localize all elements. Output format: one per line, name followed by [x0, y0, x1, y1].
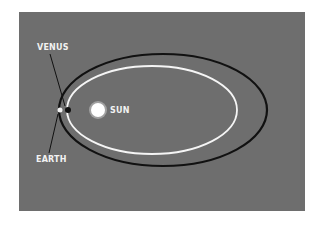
earth-leader-line [49, 114, 58, 153]
sun-label: SUN [110, 106, 130, 115]
orbit-diagram: SUN VENUS EARTH [0, 0, 321, 225]
sun-core [91, 103, 105, 117]
earth-label: EARTH [36, 155, 67, 164]
venus-leader-line [50, 54, 65, 106]
venus-icon [65, 107, 71, 113]
venus-label: VENUS [37, 43, 69, 52]
earth-icon [58, 108, 63, 113]
